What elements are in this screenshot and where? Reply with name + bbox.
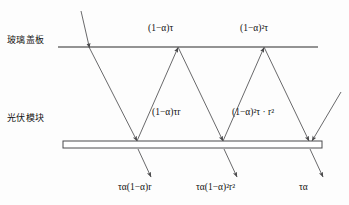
ray-glass-to-module-1 — [89, 47, 137, 141]
ray-diagram-figure: 玻璃盖板 光伏模块 (1−α)τ (1−α)²τ (1−α)τr (1−α)²τ… — [0, 0, 349, 205]
ray-module-to-glass-2 — [223, 48, 264, 142]
ray-diagram-canvas — [0, 0, 349, 205]
glass-cover-label: 玻璃盖板 — [7, 36, 44, 45]
transmitted-ray-1 — [138, 149, 151, 177]
formula-top-second-reflection: (1−α)²τ — [240, 24, 268, 34]
transmitted-ray-3 — [310, 149, 323, 177]
incident-ray — [81, 11, 90, 48]
formula-mid-first: (1−α)τr — [152, 108, 180, 118]
ray-glass-to-module-2 — [178, 47, 223, 141]
pv-module-label: 光伏模块 — [7, 114, 44, 123]
ray-glass-to-module-3 — [264, 47, 309, 141]
formula-bottom-second: τα(1−α)²r² — [196, 183, 235, 193]
formula-mid-second: (1−α)²τ · r² — [232, 108, 274, 118]
ray-module-to-glass-1 — [137, 48, 178, 142]
formula-bottom-third: τα — [299, 183, 308, 193]
formula-top-first-reflection: (1−α)τ — [148, 24, 173, 34]
transmitted-ray-2 — [224, 149, 237, 177]
formula-bottom-first: τα(1−α)r — [118, 183, 151, 193]
secondary-incident-ray — [312, 92, 341, 141]
pv-module-bar — [63, 141, 322, 148]
